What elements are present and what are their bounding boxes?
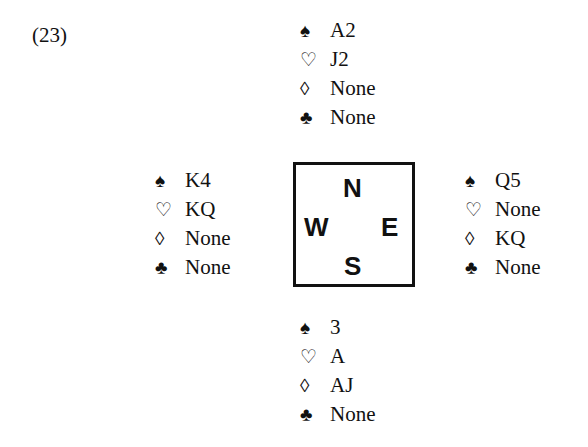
heart-icon: ♡: [155, 195, 185, 224]
west-diamonds: None: [185, 224, 231, 253]
compass-north: N: [343, 175, 362, 201]
west-diamonds-row: ◊None: [155, 224, 231, 253]
west-spades: K4: [185, 166, 211, 195]
south-clubs: None: [330, 400, 376, 429]
diamond-icon: ◊: [465, 224, 495, 253]
spade-icon: ♠: [465, 166, 495, 195]
south-spades: 3: [330, 313, 341, 342]
west-hearts: KQ: [185, 195, 215, 224]
club-icon: ♣: [465, 253, 495, 282]
north-spades-row: ♠A2: [300, 16, 376, 45]
diamond-icon: ◊: [300, 74, 330, 103]
spade-icon: ♠: [300, 313, 330, 342]
club-icon: ♣: [300, 400, 330, 429]
east-spades: Q5: [495, 166, 521, 195]
south-clubs-row: ♣None: [300, 400, 376, 429]
compass-box: N W E S: [293, 162, 415, 287]
east-hand: ♠Q5 ♡None ◊KQ ♣None: [465, 166, 541, 282]
diamond-icon: ◊: [155, 224, 185, 253]
heart-icon: ♡: [300, 45, 330, 74]
west-clubs-row: ♣None: [155, 253, 231, 282]
south-hand: ♠3 ♡A ◊AJ ♣None: [300, 313, 376, 429]
east-diamonds-row: ◊KQ: [465, 224, 541, 253]
north-hearts-row: ♡J2: [300, 45, 376, 74]
north-hearts: J2: [330, 45, 349, 74]
north-diamonds: None: [330, 74, 376, 103]
north-clubs: None: [330, 103, 376, 132]
club-icon: ♣: [300, 103, 330, 132]
compass-east: E: [381, 214, 398, 240]
west-clubs: None: [185, 253, 231, 282]
compass-west: W: [304, 214, 329, 240]
south-diamonds: AJ: [330, 371, 353, 400]
diamond-icon: ◊: [300, 371, 330, 400]
south-diamonds-row: ◊AJ: [300, 371, 376, 400]
spade-icon: ♠: [155, 166, 185, 195]
heart-icon: ♡: [465, 195, 495, 224]
west-spades-row: ♠K4: [155, 166, 231, 195]
east-clubs: None: [495, 253, 541, 282]
east-spades-row: ♠Q5: [465, 166, 541, 195]
north-clubs-row: ♣None: [300, 103, 376, 132]
south-hearts-row: ♡A: [300, 342, 376, 371]
compass-south: S: [344, 253, 361, 279]
spade-icon: ♠: [300, 16, 330, 45]
north-spades: A2: [330, 16, 356, 45]
west-hand: ♠K4 ♡KQ ◊None ♣None: [155, 166, 231, 282]
problem-number: (23): [32, 23, 67, 48]
north-hand: ♠A2 ♡J2 ◊None ♣None: [300, 16, 376, 132]
west-hearts-row: ♡KQ: [155, 195, 231, 224]
east-hearts-row: ♡None: [465, 195, 541, 224]
east-clubs-row: ♣None: [465, 253, 541, 282]
east-hearts: None: [495, 195, 541, 224]
north-diamonds-row: ◊None: [300, 74, 376, 103]
south-hearts: A: [330, 342, 345, 371]
club-icon: ♣: [155, 253, 185, 282]
heart-icon: ♡: [300, 342, 330, 371]
south-spades-row: ♠3: [300, 313, 376, 342]
east-diamonds: KQ: [495, 224, 525, 253]
